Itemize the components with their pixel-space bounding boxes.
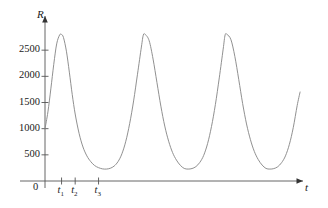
x-tick-label: t2 — [71, 184, 77, 198]
y-tick-label: 2500 — [2, 43, 40, 54]
axes-group — [20, 16, 303, 188]
x-tick-label: t1 — [58, 184, 64, 198]
x-axis-label: t — [305, 181, 308, 193]
chart-plot-area — [0, 0, 328, 208]
y-tick-label: 1500 — [2, 96, 40, 107]
data-series-line — [45, 34, 300, 170]
origin-label: 0 — [33, 181, 38, 192]
y-tick-label: 1000 — [2, 122, 40, 133]
chart-figure: R t 0 5001000150020002500 t1t2t3 — [0, 0, 328, 208]
y-axis-label: R — [37, 8, 44, 20]
y-tick-label: 2000 — [2, 69, 40, 80]
x-tick-label: t3 — [95, 184, 101, 198]
x-axis-arrow-icon — [297, 178, 304, 184]
y-tick-label: 500 — [2, 148, 40, 159]
